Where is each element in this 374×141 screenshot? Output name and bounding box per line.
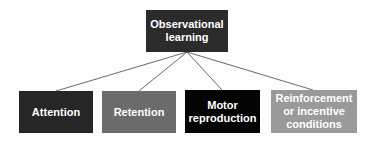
motor-label-line1: Motor [189, 99, 257, 112]
motor-label-line2: reproduction [189, 112, 257, 125]
reinforcement-label-line2: or incentive [275, 105, 352, 118]
reinforcement-label-line3: conditions [275, 118, 352, 131]
root-label-line2: learning [150, 31, 223, 44]
child-node-attention: Attention [19, 91, 93, 133]
attention-label: Attention [32, 106, 80, 119]
reinforcement-label-line1: Reinforcement [275, 92, 352, 105]
child-node-reinforcement: Reinforcement or incentive conditions [271, 90, 357, 133]
retention-label: Retention [114, 106, 165, 119]
child-node-retention: Retention [102, 91, 176, 133]
root-node-observational-learning: Observational learning [146, 10, 228, 52]
child-node-motor-reproduction: Motor reproduction [185, 90, 260, 133]
root-label-line1: Observational [150, 18, 223, 31]
